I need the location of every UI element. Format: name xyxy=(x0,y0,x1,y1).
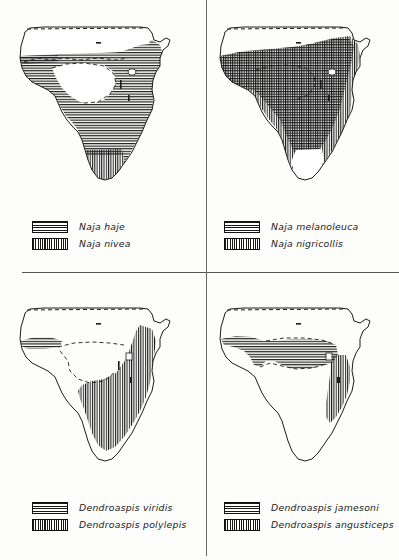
legend-row: Dendroaspis jamesoni xyxy=(224,499,399,516)
panel-dendroaspis-jamesoni-angusticeps: Dendroaspis jamesoni Dendroaspis angusti… xyxy=(200,281,399,553)
legend-species-name: Naja haje xyxy=(79,221,125,232)
swatch-horizontal-hatch-icon xyxy=(224,221,260,233)
swatch-vertical-hatch-icon xyxy=(224,238,260,250)
lake-malawi-2 xyxy=(328,95,330,101)
legend-species-name: Naja nigricollis xyxy=(271,238,343,249)
africa-map-svg-2 xyxy=(200,0,399,205)
lake-victoria-1 xyxy=(128,69,136,75)
legend-panel-1: Naja haje Naja nivea xyxy=(32,218,200,252)
range-dendroaspis-jamesoni xyxy=(221,336,338,369)
panel-naja-melanoleuca-nigricollis: Naja melanoleuca Naja nigricollis xyxy=(200,0,399,272)
distribution-map-figure: Naja haje Naja nivea xyxy=(0,0,399,560)
dashed-sahel-boundary-3 xyxy=(58,342,124,347)
legend-species-name: Dendroaspis polylepis xyxy=(79,519,187,530)
lake-tanganyika-1 xyxy=(120,80,122,89)
map-panel-3 xyxy=(0,281,199,486)
legend-species-name: Dendroaspis angusticeps xyxy=(271,519,394,530)
legend-row: Naja melanoleuca xyxy=(224,218,399,235)
swatch-horizontal-hatch-icon xyxy=(32,502,68,514)
legend-species-name: Dendroaspis viridis xyxy=(79,502,173,513)
range-naja-nivea xyxy=(86,149,124,180)
lake-malawi-4 xyxy=(337,377,340,383)
lake-malawi-1 xyxy=(128,95,130,101)
legend-row: Naja nigricollis xyxy=(224,235,399,252)
legend-row: Naja haje xyxy=(32,218,200,235)
legend-species-name: Naja melanoleuca xyxy=(271,221,359,232)
dashed-north-boundary-2 xyxy=(227,28,346,29)
swatch-vertical-hatch-icon xyxy=(32,519,68,531)
lake-tanganyika-3 xyxy=(118,361,120,370)
lake-chad-2 xyxy=(296,42,301,44)
lake-victoria-4 xyxy=(326,353,332,360)
dashed-north-boundary-3 xyxy=(27,309,146,310)
legend-row: Dendroaspis angusticeps xyxy=(224,516,399,533)
legend-panel-4: Dendroaspis jamesoni Dendroaspis angusti… xyxy=(224,499,399,533)
dashed-north-boundary-1 xyxy=(27,28,146,29)
lake-victoria-3 xyxy=(126,353,132,360)
dashed-north-boundary-4 xyxy=(227,309,346,310)
legend-species-name: Dendroaspis jamesoni xyxy=(271,502,379,513)
africa-map-svg-3 xyxy=(0,281,199,486)
swatch-horizontal-hatch-icon xyxy=(224,502,260,514)
panel-dendroaspis-viridis-polylepis: Dendroaspis viridis Dendroaspis polylepi… xyxy=(0,281,199,553)
lake-chad-1 xyxy=(96,42,101,44)
lake-victoria-2 xyxy=(328,69,336,75)
africa-map-svg-4 xyxy=(200,281,399,486)
swatch-vertical-hatch-icon xyxy=(224,519,260,531)
legend-panel-3: Dendroaspis viridis Dendroaspis polylepi… xyxy=(32,499,200,533)
horizontal-divider xyxy=(22,272,399,273)
africa-map-svg-1 xyxy=(0,0,199,205)
swatch-horizontal-hatch-icon xyxy=(32,221,68,233)
legend-species-name: Naja nivea xyxy=(79,238,131,249)
legend-row: Dendroaspis polylepis xyxy=(32,516,200,533)
lake-tanganyika-2 xyxy=(320,80,322,89)
legend-row: Naja nivea xyxy=(32,235,200,252)
panel-naja-haje-nivea: Naja haje Naja nivea xyxy=(0,0,199,272)
lake-chad-3 xyxy=(96,323,101,325)
lake-chad-4 xyxy=(296,323,301,325)
range-dendroaspis-viridis xyxy=(21,337,62,349)
legend-panel-2: Naja melanoleuca Naja nigricollis xyxy=(224,218,399,252)
legend-row: Dendroaspis viridis xyxy=(32,499,200,516)
map-panel-1 xyxy=(0,0,199,205)
lake-malawi-3 xyxy=(130,377,132,383)
swatch-vertical-hatch-icon xyxy=(32,238,68,250)
range-dendroaspis-angusticeps xyxy=(326,355,350,423)
map-panel-2 xyxy=(200,0,399,205)
map-panel-4 xyxy=(200,281,399,486)
